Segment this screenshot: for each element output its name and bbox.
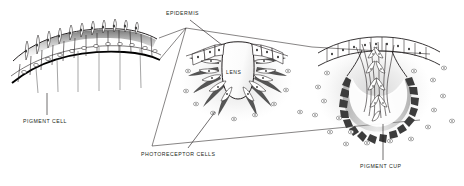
left-basal-membrane <box>12 52 160 83</box>
photoreceptor-leader-line <box>188 112 215 148</box>
label-lens: LENS <box>226 70 241 75</box>
panel-cup-with-lens <box>181 42 303 122</box>
label-pigment-cell: PIGMENT CELL <box>23 119 67 124</box>
label-epidermis: EPIDERMIS <box>166 11 199 16</box>
panel-pigment-cup-eye <box>312 37 454 146</box>
label-pigment-cup: PIGMENT CUP <box>360 164 401 169</box>
label-photoreceptor-cells: PHOTORECEPTOR CELLS <box>141 152 215 157</box>
eye-evolution-figure: EPIDERMIS PIGMENT CELL LENS PHOTORECEPTO… <box>0 0 464 186</box>
panel-flat-eyespot <box>11 19 161 93</box>
figure-illustration <box>0 0 464 186</box>
